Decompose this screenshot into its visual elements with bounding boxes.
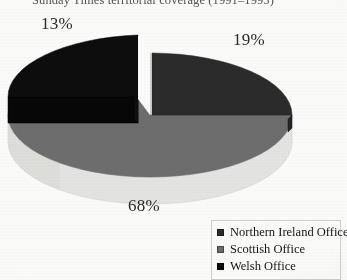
- legend-item-scottish-office: Scottish Office: [217, 241, 336, 258]
- slice-top-welsh: [8, 35, 138, 97]
- legend-label-northern-ireland-office: Northern Ireland Office: [230, 226, 347, 239]
- legend-label-scottish-office: Scottish Office: [230, 243, 305, 256]
- data-label-scottish: 68%: [128, 196, 160, 216]
- legend-swatch-icon-welsh-office: [217, 263, 224, 270]
- data-label-northern-ireland: 19%: [233, 30, 265, 50]
- legend-item-northern-ireland-office: Northern Ireland Office: [217, 224, 336, 241]
- figure-container: Sunday Times territorial coverage (1991–…: [0, 0, 347, 280]
- legend-label-welsh-office: Welsh Office: [230, 260, 296, 273]
- legend-swatch-icon-northern-ireland-office: [217, 229, 224, 236]
- slice-group-welsh: [8, 35, 138, 123]
- slice-side-welsh: [8, 97, 138, 123]
- slice-top-northern-ireland: [152, 53, 292, 115]
- slice-side-welsh-cut: [134, 95, 138, 123]
- legend: Northern Ireland Office Scottish Office …: [211, 220, 341, 280]
- legend-swatch-icon-scottish-office: [217, 246, 224, 253]
- legend-item-welsh-office: Welsh Office: [217, 258, 336, 275]
- data-label-welsh: 13%: [41, 14, 73, 34]
